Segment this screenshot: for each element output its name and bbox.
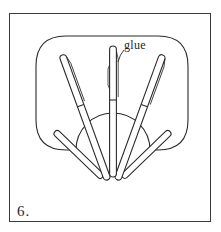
glue-label: glue xyxy=(124,38,146,53)
instruction-figure: glue 6. xyxy=(0,0,221,232)
fan-sticks-illustration xyxy=(0,0,221,232)
stick-center xyxy=(108,46,118,177)
step-number: 6. xyxy=(17,203,30,220)
